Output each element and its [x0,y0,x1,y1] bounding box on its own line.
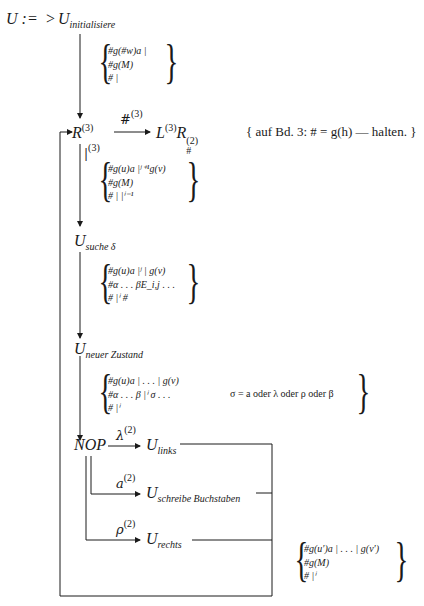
condition-line: #α . . . β |ⁱ σ . . . [108,388,179,402]
node-subscript: initialisiere [70,19,116,30]
condition-line: # | [108,71,147,85]
node-subscript: rechts [158,539,182,550]
program-definition-lhs: U := [6,10,38,28]
edge-label: a [116,476,124,491]
condition-line: #g(#w)a | [108,44,147,58]
condition-line: #g(u)a | . . . | g(v) [108,374,179,388]
node-base: U [74,232,86,249]
condition-line: #g(u)a |ʲ⁺¹g(v) [108,162,166,176]
edge-label-lambda: λ(2) [116,424,136,443]
condition-line: # | |ⁱ⁻¹ [108,189,166,203]
condition-line: #g(M) [108,58,147,72]
node-base: U [58,10,70,27]
node-base: U [74,340,86,357]
right-brace-icon: } [357,364,371,419]
right-brace-icon: } [187,152,201,207]
node-base: R [177,124,187,141]
condition-note: σ = a oder λ oder ρ oder β [230,387,334,401]
diagram-connectors [0,0,424,606]
right-brace-icon: } [395,532,409,587]
node-subscript: suche δ [86,241,116,252]
node-initialisiere: Uinitialisiere [58,10,115,30]
edge-superscript: (2) [124,518,136,529]
node-subscript: links [158,445,177,456]
condition-line: # |ⁱ [108,401,179,415]
edge-superscript: (3) [131,108,143,119]
node-r3: R(3) [72,122,93,142]
annotation-note: { auf Bd. 3: # = g(h) — halten. } [246,124,416,140]
start-marker: > [46,10,55,28]
node-rechts: Urechts [146,530,182,550]
edge-label: # [120,112,131,127]
edge-label: λ [116,428,124,443]
node-schreibe-buchstaben: Uschreibe Buchstaben [146,484,240,504]
node-base: U [146,436,158,453]
node-l3r2: L(3)R(2)# [156,122,198,156]
right-brace-icon: } [187,254,201,309]
node-neuer-zustand: Uneuer Zustand [74,340,143,360]
definition-symbol: U := [6,10,38,27]
condition-line: # |ⁱ # [108,291,175,305]
node-base: U [146,530,158,547]
node-base: R [72,124,82,141]
edge-label: ρ [116,522,124,537]
condition-line: #g(u)a |ʲ | g(v) [108,264,175,278]
edge-label-hash3: #(3) [120,108,143,127]
node-nop: NOP [74,436,106,454]
condition-line: #α . . . βE_i,j . . . [108,278,175,292]
edge-superscript: (2) [124,472,136,483]
node-superscript: (3) [82,122,94,133]
start-marker-symbol: > [46,10,55,27]
node-links: Ulinks [146,436,176,456]
edge-label-rho: ρ(2) [116,518,135,537]
node-subscript: neuer Zustand [86,349,144,360]
condition-line: #g(M) [304,556,379,570]
node-subscript: schreibe Buchstaben [158,493,241,504]
node-base: L [156,124,165,141]
edge-label-bar3: |(3) [84,142,100,161]
right-brace-icon: } [165,34,179,89]
node-suche: Usuche δ [74,232,115,252]
condition-line: #g(u′)a | . . . | g(v′) [304,542,379,556]
edge-label-a: a(2) [116,472,135,491]
condition-line: # |ⁱ [304,569,379,583]
edge-superscript: (2) [124,424,136,435]
node-base: U [146,484,158,501]
node-superscript: (3) [165,122,177,133]
condition-line: #g(M) [108,176,166,190]
